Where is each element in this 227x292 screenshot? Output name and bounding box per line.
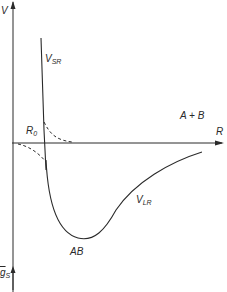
v-axis-label: V: [1, 6, 8, 16]
r-axis-label: R: [216, 127, 223, 137]
short-range-label-sub: SR: [52, 58, 62, 65]
gs-axis-label: gS: [0, 268, 10, 279]
gs-axis-label-sub: S: [6, 272, 11, 279]
long-range-label-main: V: [136, 194, 143, 205]
r-axis-arrow-icon: [215, 141, 224, 146]
short-range-label-main: V: [45, 53, 52, 64]
potential-well-curve: [46, 152, 202, 239]
dissociated-state-label: A + B: [180, 111, 204, 121]
r0-label-sub: 0: [33, 130, 37, 137]
long-range-label: VLR: [136, 195, 152, 206]
potential-energy-diagram: [0, 0, 227, 292]
gs-axis-arrow-icon: [11, 266, 16, 273]
bound-state-label: AB: [70, 247, 83, 257]
short-range-label: VSR: [45, 54, 61, 65]
short-range-tail-dashed: [44, 122, 72, 142]
v-axis-arrow-icon: [11, 1, 16, 9]
long-range-continuation-dashed: [18, 144, 46, 162]
r0-label: R0: [26, 126, 37, 137]
long-range-label-sub: LR: [143, 199, 152, 206]
